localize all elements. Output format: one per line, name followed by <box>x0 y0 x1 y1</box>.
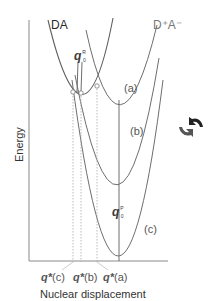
q0r-base: q <box>74 49 81 63</box>
qstar-c-label: q*(c) <box>41 272 65 283</box>
rotate-arrow-top <box>189 117 203 127</box>
curve-a-label: (a) <box>124 83 137 94</box>
q0r-label: qR0 <box>74 50 86 62</box>
crossing-marker-c <box>71 90 75 94</box>
qstar-a-base: q* <box>103 271 114 283</box>
y-axis-title: Energy <box>14 127 25 162</box>
product-label: D⁺A⁻ <box>153 19 182 31</box>
q0p-sup: P <box>120 205 123 211</box>
rotate-arrows-icon[interactable] <box>177 113 205 141</box>
qstar-b-suffix: (b) <box>84 271 97 283</box>
q0r-sup: R <box>82 49 86 55</box>
marcus-energy-diagram <box>0 0 212 301</box>
x-axis-title: Nuclear displacement <box>40 289 146 300</box>
rotate-arrow-bottom <box>179 127 193 137</box>
curve-c-label: (c) <box>144 224 157 235</box>
qstar-c-base: q* <box>41 271 52 283</box>
crossing-marker-b <box>79 91 83 95</box>
reactant-label: DA <box>51 19 68 31</box>
curve-b <box>75 58 159 185</box>
leader-qc <box>62 262 73 270</box>
crossing-marker-a <box>95 84 99 88</box>
qstar-b-base: q* <box>73 271 84 283</box>
leader-qa <box>97 262 108 270</box>
qstar-a-label: q*(a) <box>103 272 127 283</box>
curve-b-label: (b) <box>130 126 143 137</box>
q0r-sub: 0 <box>83 57 86 63</box>
qstar-b-label: q*(b) <box>73 272 97 283</box>
qstar-c-suffix: (c) <box>52 271 65 283</box>
q0p-label: qP0 <box>112 206 123 218</box>
qstar-a-suffix: (a) <box>114 271 127 283</box>
q0r-line-2 <box>81 62 82 92</box>
q0p-base: q <box>112 205 119 219</box>
